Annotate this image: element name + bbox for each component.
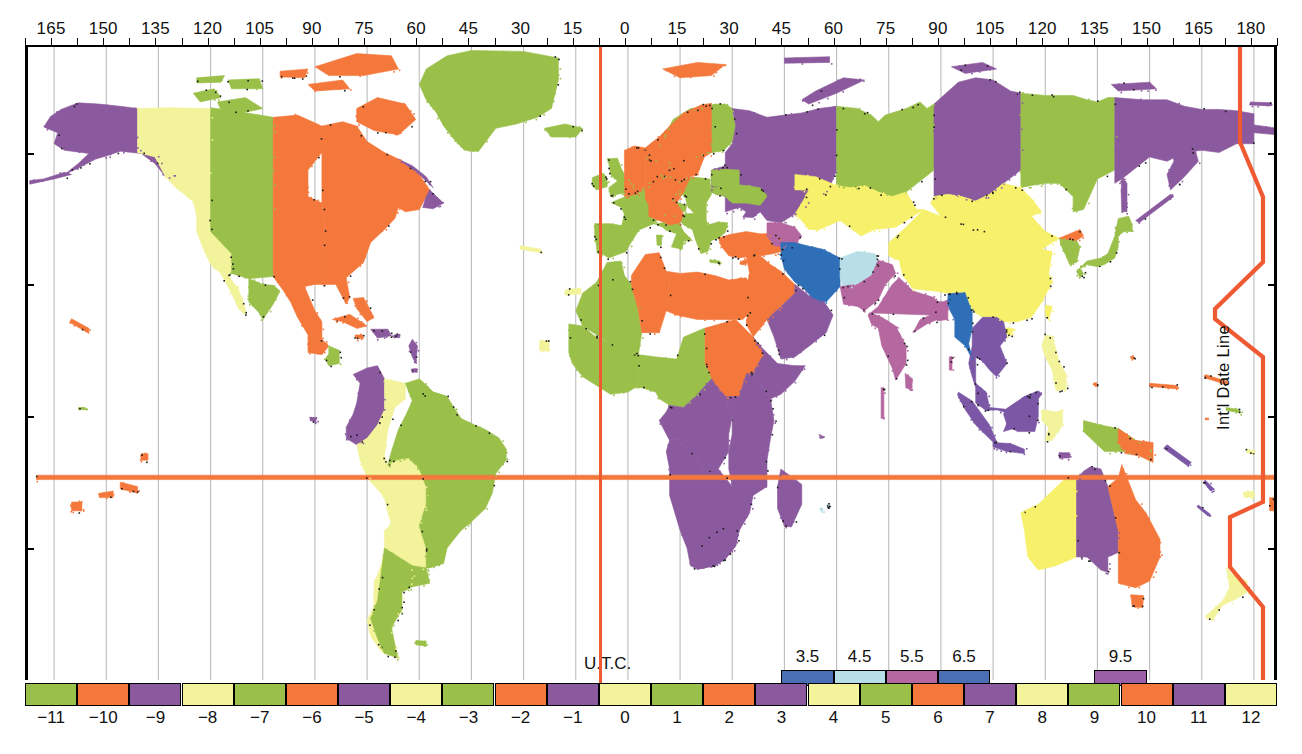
coast-speckle <box>381 152 383 154</box>
coast-speckle <box>732 485 734 487</box>
legend-swatch[interactable] <box>755 683 807 706</box>
coast-speckle <box>487 431 489 433</box>
legend-swatch[interactable] <box>964 683 1016 706</box>
coast-speckle <box>411 569 413 571</box>
legend-swatch[interactable] <box>860 683 912 706</box>
legend-swatch[interactable] <box>495 683 547 706</box>
legend-swatch[interactable] <box>1121 683 1173 706</box>
legend-swatch[interactable] <box>1068 683 1120 706</box>
coast-speckle <box>621 225 623 227</box>
coast-speckle <box>1078 495 1080 497</box>
coast-speckle <box>675 194 677 196</box>
coast-speckle <box>259 312 261 314</box>
coast-speckle <box>724 65 726 67</box>
coast-speckle <box>1126 232 1128 234</box>
coast-speckle <box>789 366 791 368</box>
coast-speckle <box>50 177 52 179</box>
coast-speckle <box>1077 275 1079 277</box>
coast-speckle <box>998 375 1000 377</box>
coast-speckle <box>1049 251 1051 253</box>
coast-speckle <box>670 311 672 313</box>
coast-speckle <box>632 290 634 292</box>
coast-speckle <box>624 216 626 218</box>
legend-offset-label: 6 <box>933 709 942 726</box>
coast-speckle <box>245 312 247 314</box>
coast-speckle <box>620 208 622 210</box>
coast-speckle <box>613 202 615 204</box>
coast-speckle <box>1209 515 1211 517</box>
coast-speckle <box>871 320 873 322</box>
legend-swatch[interactable] <box>912 683 964 706</box>
coast-speckle <box>1073 481 1075 483</box>
coast-speckle <box>1138 456 1140 458</box>
coast-speckle <box>828 503 830 505</box>
legend-swatch[interactable] <box>703 683 755 706</box>
coast-speckle <box>731 279 733 281</box>
coast-speckle <box>1230 110 1232 112</box>
coast-speckle <box>37 481 39 483</box>
coast-speckle <box>1252 106 1254 108</box>
coast-speckle <box>762 355 764 357</box>
coast-speckle <box>113 494 115 496</box>
legend-offset-label: 0 <box>620 709 629 726</box>
legend-swatch[interactable] <box>129 683 181 706</box>
legend-swatch[interactable] <box>599 683 651 706</box>
coast-speckle <box>725 398 727 400</box>
coast-speckle <box>827 98 829 100</box>
coast-speckle <box>339 89 341 91</box>
coast-speckle <box>620 279 622 281</box>
coast-speckle <box>1037 184 1039 186</box>
coast-speckle <box>1209 618 1211 620</box>
coast-speckle <box>67 178 69 180</box>
coast-speckle <box>213 268 215 270</box>
coast-speckle <box>397 336 399 338</box>
coast-speckle <box>1008 335 1010 337</box>
legend-swatch[interactable] <box>442 683 494 706</box>
coast-speckle <box>1205 616 1207 618</box>
coast-speckle <box>649 227 651 229</box>
coast-speckle <box>971 369 973 371</box>
coast-speckle <box>218 99 220 101</box>
coast-speckle <box>738 527 740 529</box>
coast-speckle <box>1076 491 1078 493</box>
longitude-tick <box>990 38 991 46</box>
coast-speckle <box>1047 441 1049 443</box>
coast-speckle <box>660 247 662 249</box>
coast-speckle <box>1077 271 1079 273</box>
coast-speckle <box>543 56 545 58</box>
coast-speckle <box>1020 172 1022 174</box>
legend-swatch[interactable] <box>808 683 860 706</box>
coast-speckle <box>435 394 437 396</box>
coast-speckle <box>463 147 465 149</box>
legend-swatch[interactable] <box>390 683 442 706</box>
legend-swatch[interactable] <box>77 683 129 706</box>
coast-speckle <box>839 258 841 260</box>
coast-speckle <box>411 126 413 128</box>
legend-swatch[interactable] <box>338 683 390 706</box>
legend-swatch[interactable] <box>1173 683 1225 706</box>
coast-speckle <box>1019 114 1021 116</box>
coast-speckle <box>305 75 307 77</box>
legend-swatch[interactable] <box>547 683 599 706</box>
coast-speckle <box>794 290 796 292</box>
legend-swatch[interactable] <box>1016 683 1068 706</box>
coast-speckle <box>400 159 402 161</box>
coast-speckle <box>1039 213 1041 215</box>
legend-swatch[interactable] <box>1225 683 1277 706</box>
coast-speckle <box>158 161 160 163</box>
coast-speckle <box>1061 483 1063 485</box>
legend-swatch[interactable] <box>234 683 286 706</box>
coast-speckle <box>1006 89 1008 91</box>
coast-speckle <box>1223 600 1225 602</box>
legend-swatch[interactable] <box>25 683 77 706</box>
coast-speckle <box>309 353 311 355</box>
legend-swatch[interactable] <box>651 683 703 706</box>
coast-speckle <box>732 257 734 259</box>
coast-speckle <box>689 402 691 404</box>
longitude-tick <box>1094 38 1095 46</box>
coast-speckle <box>321 340 323 342</box>
coast-speckle <box>309 348 311 350</box>
legend-swatch[interactable] <box>286 683 338 706</box>
legend-swatch[interactable] <box>182 683 234 706</box>
coast-speckle <box>623 267 625 269</box>
